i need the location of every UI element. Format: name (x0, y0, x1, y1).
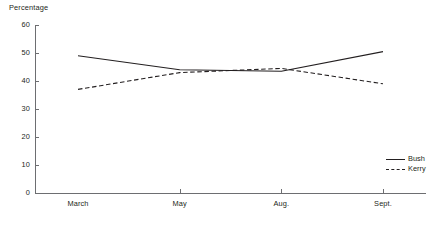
legend-swatch-solid-icon (386, 159, 405, 160)
legend-label-bush: Bush (408, 154, 425, 163)
series-line-bush (78, 52, 383, 72)
series-line-kerry (78, 68, 383, 89)
plot-area: 6050403020100 MarchMayAug.Sept. (0, 0, 444, 231)
series-lines (0, 0, 444, 231)
legend-swatch-dashed-icon (386, 169, 405, 170)
line-chart: Percentage 6050403020100 MarchMayAug.Sep… (0, 0, 444, 231)
legend-label-kerry: Kerry (408, 164, 426, 173)
